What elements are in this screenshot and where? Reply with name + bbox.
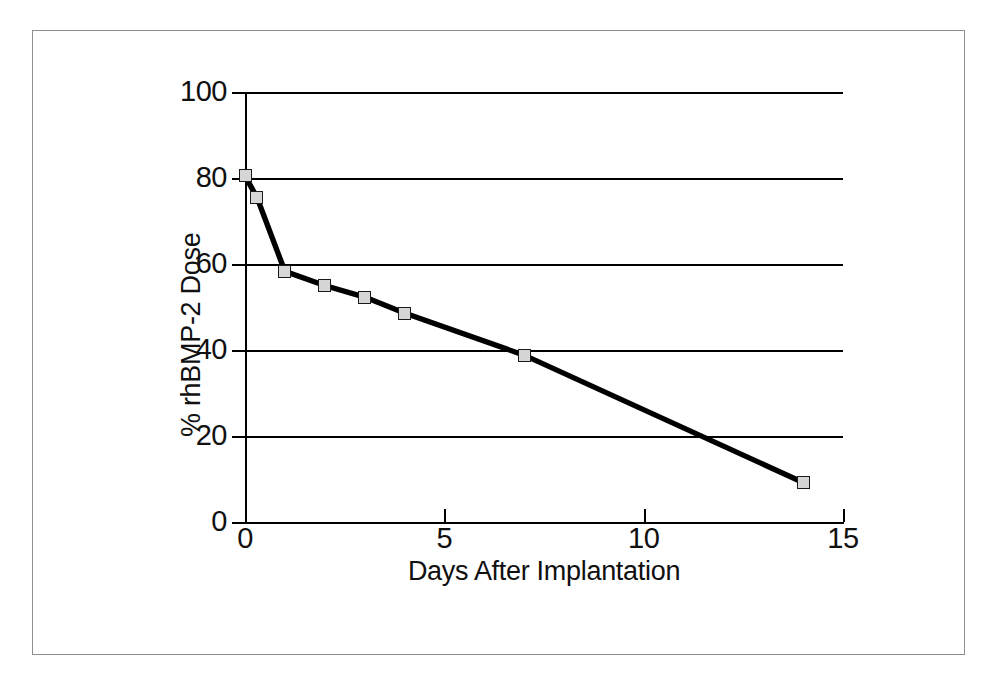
y-tick-100 xyxy=(232,92,245,94)
data-point-marker xyxy=(398,307,411,320)
y-tick-40 xyxy=(232,350,245,352)
gridline-y-20 xyxy=(245,436,843,438)
x-tick-15 xyxy=(843,509,845,522)
data-point-marker xyxy=(797,476,810,489)
data-point-marker xyxy=(358,291,371,304)
data-point-marker xyxy=(250,191,263,204)
y-ticklabel-100: 100 xyxy=(165,77,227,106)
data-point-marker xyxy=(518,349,531,362)
y-ticklabel-80: 80 xyxy=(165,163,227,192)
data-point-marker xyxy=(318,279,331,292)
data-point-marker xyxy=(278,265,291,278)
y-axis-label: % rhBMP-2 Dose xyxy=(178,233,205,437)
y-tick-60 xyxy=(232,264,245,266)
gridline-y-80 xyxy=(245,178,843,180)
gridline-y-100 xyxy=(245,92,843,94)
gridline-y-60 xyxy=(245,264,843,266)
x-ticklabel-15: 15 xyxy=(808,524,878,553)
y-axis-line xyxy=(245,92,247,524)
x-ticklabel-0: 0 xyxy=(210,524,280,553)
data-point-marker xyxy=(239,169,252,182)
x-axis-label: Days After Implantation xyxy=(245,556,843,586)
x-axis-line xyxy=(244,522,844,524)
x-tick-10 xyxy=(644,509,646,522)
x-tick-5 xyxy=(444,509,446,522)
x-ticklabel-10: 10 xyxy=(609,524,679,553)
gridline-y-40 xyxy=(245,350,843,352)
figure-canvas: 020406080100 051015 % rhBMP-2 Dose Days … xyxy=(0,0,998,694)
y-tick-20 xyxy=(232,436,245,438)
x-ticklabel-5: 5 xyxy=(409,524,479,553)
